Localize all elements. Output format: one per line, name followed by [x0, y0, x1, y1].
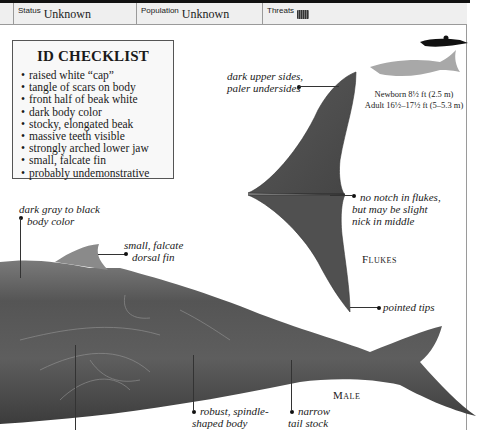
flukes-label: Flukes — [362, 253, 397, 265]
checklist-item: probably undemonstrative — [21, 167, 165, 179]
checklist-item: stocky, elongated beak — [21, 118, 165, 130]
newborn-size: Newborn 8½ ft (2.5 m) — [362, 89, 466, 99]
checklist-item: small, falcate fin — [21, 154, 165, 166]
checklist-item: massive teeth visible — [21, 130, 165, 142]
annotation-narrow-tail: narrow tail stock — [288, 405, 330, 429]
adult-size: Adult 16½–17½ ft (5–5.3 m) — [362, 100, 466, 110]
whale-body — [0, 260, 476, 424]
annotation-upper-sides: dark upper sides, paler undersides — [227, 70, 303, 94]
checklist-item: front half of beak white — [21, 93, 165, 105]
annotation-robust-body: robust, spindle- shaped body — [192, 405, 269, 429]
checklist-item: dark body color — [21, 106, 165, 118]
annotation-body-color: dark gray to black body color — [19, 203, 100, 227]
annotation-dorsal-fin: small, falcate dorsal fin — [124, 239, 183, 263]
checklist-title: ID CHECKLIST — [21, 48, 165, 65]
checklist-items: raised white “cap” tangle of scars on bo… — [21, 69, 165, 179]
annotation-no-notch: no notch in flukes, — [360, 191, 441, 203]
diver-silhouette — [420, 39, 468, 47]
checklist-item: raised white “cap” — [21, 69, 165, 81]
id-checklist: ID CHECKLIST raised white “cap” tangle o… — [12, 40, 174, 179]
checklist-item: tangle of scars on body — [21, 81, 165, 93]
male-label: Male — [333, 389, 360, 401]
whale-silhouette — [370, 50, 460, 76]
annotation-pointed-tips: pointed tips — [383, 301, 435, 313]
fluke-lower — [248, 195, 350, 312]
checklist-item: strongly arched lower jaw — [21, 142, 165, 154]
annotation-no-notch-cont: but may be slight nick in middle — [352, 203, 427, 227]
